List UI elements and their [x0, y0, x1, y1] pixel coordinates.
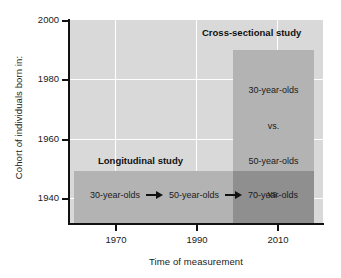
x-tick-label-1990: 1990: [167, 234, 227, 245]
y-tick-label-1940: 1940: [0, 192, 59, 203]
cross-sectional-item-30-year-olds: 30-year-olds: [233, 85, 314, 95]
x-axis-title: Time of measurement: [69, 256, 323, 267]
figure-cohort-study-designs: Cohort of individuals born in: Cross-sec…: [0, 0, 341, 278]
y-tick-label-1980: 1980: [0, 73, 59, 84]
longitudinal-step-70-year-olds: 70-year-olds: [248, 190, 298, 200]
y-axis-line: [68, 19, 70, 224]
arrow-right-icon: [225, 191, 242, 200]
y-tick-label-1960: 1960: [0, 133, 59, 144]
longitudinal-study-sequence: 30-year-olds 50-year-olds 70-year-olds: [74, 190, 314, 200]
y-tick-mark-2000: [62, 20, 69, 22]
arrow-right-icon: [146, 191, 163, 200]
y-tick-mark-1980: [62, 79, 69, 81]
y-tick-mark-1940: [62, 198, 69, 200]
x-tick-label-1970: 1970: [86, 234, 146, 245]
longitudinal-step-50-year-olds: 50-year-olds: [169, 190, 219, 200]
cross-sectional-item-50-year-olds: 50-year-olds: [233, 156, 314, 166]
cross-sectional-separator-1: vs.: [233, 121, 314, 131]
y-tick-label-2000: 2000: [0, 14, 59, 25]
x-tick-mark-1970: [115, 224, 117, 231]
cross-sectional-study-title: Cross-sectional study: [202, 27, 301, 38]
longitudinal-study-title: Longitudinal study: [98, 155, 183, 166]
x-tick-mark-1990: [196, 224, 198, 231]
y-tick-mark-1960: [62, 139, 69, 141]
longitudinal-step-30-year-olds: 30-year-olds: [90, 190, 140, 200]
x-tick-mark-2010: [277, 224, 279, 231]
plot-area: Cross-sectional study 30-year-olds vs. 5…: [69, 20, 323, 223]
x-tick-label-2010: 2010: [248, 234, 308, 245]
